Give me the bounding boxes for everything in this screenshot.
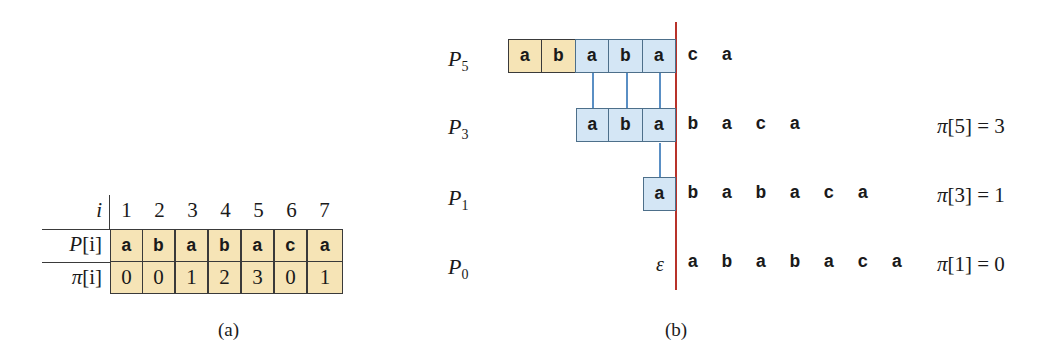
row-divider-2 — [42, 262, 110, 263]
index-symbol: i — [96, 198, 102, 222]
pattern-symbol: P — [69, 232, 82, 256]
pi-row-label: π[i] — [2, 265, 102, 290]
label-symbol: P — [448, 114, 461, 139]
empty-string-symbol: ε — [656, 253, 664, 276]
caption-a: (a) — [218, 319, 239, 341]
pi-cell-1: 0 — [110, 261, 143, 294]
pi-symbol: π — [72, 265, 83, 289]
trailing-char: c — [676, 45, 710, 65]
trailing-char: c — [846, 252, 880, 272]
pattern-cell-1: a — [110, 229, 143, 262]
index-5: 5 — [242, 198, 275, 223]
trailing-char: b — [676, 114, 710, 134]
pi-cell-2: 0 — [142, 261, 175, 294]
trailing-char: a — [710, 183, 744, 203]
matched-prefix-box: a — [643, 177, 676, 211]
index-row-label: i — [2, 198, 102, 223]
pi-cell-6: 0 — [274, 261, 307, 294]
trailing-char: b — [676, 183, 710, 203]
pi-annotation: π[1] = 0 — [937, 252, 1005, 277]
pattern-cell-7: a — [307, 229, 343, 262]
trailing-char: a — [812, 252, 846, 272]
pi-value: [3] = 1 — [948, 183, 1005, 207]
pattern-cell-5: a — [241, 229, 274, 262]
label-symbol: P — [448, 254, 461, 279]
index-1: 1 — [110, 198, 143, 223]
label-symbol: P — [448, 46, 461, 71]
pattern-row-label: P[i] — [2, 232, 102, 257]
row-label-p0: P0 — [448, 254, 468, 283]
pi-annotation: π[3] = 1 — [937, 183, 1005, 208]
trailing-char: a — [880, 252, 914, 272]
row-divider-1 — [42, 229, 110, 230]
pattern-box: a — [508, 39, 542, 73]
pi-cell-5: 3 — [241, 261, 274, 294]
trailing-char: a — [778, 114, 812, 134]
header-vertical-divider — [109, 195, 110, 229]
matched-prefix-box: b — [608, 39, 643, 73]
pi-value: [5] = 3 — [948, 114, 1005, 138]
pi-cell-3: 1 — [175, 261, 208, 294]
pattern-cell-3: a — [175, 229, 208, 262]
trailing-char: c — [744, 114, 778, 134]
matched-prefix-box: a — [642, 39, 676, 73]
pi-symbol: π — [937, 252, 948, 276]
pi-index: [i] — [82, 265, 102, 289]
index-4: 4 — [209, 198, 242, 223]
matched-prefix-box: b — [608, 108, 643, 142]
matched-prefix-box: a — [642, 108, 676, 142]
trailing-char: a — [710, 45, 744, 65]
match-connector — [659, 143, 661, 177]
index-7: 7 — [308, 198, 341, 223]
row-label-p1: P1 — [448, 185, 468, 214]
label-symbol: P — [448, 185, 461, 210]
index-2: 2 — [143, 198, 176, 223]
trailing-char: a — [744, 252, 778, 272]
pattern-cell-6: c — [274, 229, 307, 262]
label-subscript: 1 — [461, 198, 468, 213]
matched-prefix-box: a — [576, 108, 609, 142]
trailing-char: a — [676, 252, 710, 272]
index-6: 6 — [275, 198, 308, 223]
pattern-index: [i] — [82, 232, 102, 256]
pi-cell-4: 2 — [208, 261, 241, 294]
trailing-char: a — [710, 114, 744, 134]
match-connector — [659, 73, 661, 108]
trailing-char: b — [744, 183, 778, 203]
match-connector — [592, 73, 594, 108]
trailing-char: a — [846, 183, 880, 203]
match-connector — [626, 73, 628, 108]
trailing-char: c — [812, 183, 846, 203]
index-3: 3 — [176, 198, 209, 223]
label-subscript: 3 — [461, 127, 468, 142]
pattern-box: b — [541, 39, 576, 73]
pi-cell-7: 1 — [307, 261, 343, 294]
pi-symbol: π — [937, 183, 948, 207]
pattern-cell-4: b — [208, 229, 241, 262]
matched-prefix-box: a — [575, 39, 609, 73]
trailing-char: b — [778, 252, 812, 272]
row-label-p5: P5 — [448, 46, 468, 75]
caption-b: (b) — [665, 319, 687, 341]
pi-value: [1] = 0 — [948, 252, 1005, 276]
label-subscript: 0 — [461, 267, 468, 282]
label-subscript: 5 — [461, 59, 468, 74]
row-label-p3: P3 — [448, 114, 468, 143]
trailing-char: a — [778, 183, 812, 203]
pattern-cell-2: b — [142, 229, 175, 262]
pi-annotation: π[5] = 3 — [937, 114, 1005, 139]
pi-symbol: π — [937, 114, 948, 138]
trailing-char: b — [710, 252, 744, 272]
